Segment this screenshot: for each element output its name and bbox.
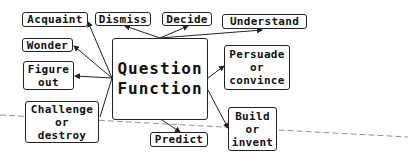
node-figure-out: Figure out: [23, 61, 74, 90]
node-wonder: Wonder: [22, 38, 73, 52]
node-label: Wonder: [27, 39, 69, 52]
node-label: invent: [232, 136, 274, 149]
node-label: Decide: [166, 13, 208, 26]
node-acquaint: Acquaint: [22, 12, 88, 27]
node-label: Predict: [155, 133, 203, 146]
node-label: or: [55, 116, 69, 129]
node-label: out: [38, 76, 59, 89]
node-label: destroy: [38, 129, 86, 142]
node-label: Challenge: [31, 103, 93, 116]
node-dismiss: Dismiss: [95, 12, 151, 26]
node-label: Build: [235, 110, 270, 123]
node-label: Persuade: [229, 48, 284, 61]
node-label: Dismiss: [99, 13, 147, 26]
node-understand: Understand: [222, 14, 307, 29]
node-label: convince: [229, 74, 284, 87]
node-decide: Decide: [162, 12, 212, 26]
node-label: Understand: [230, 15, 299, 28]
node-challenge: Challenge or destroy: [25, 101, 99, 143]
node-predict: Predict: [150, 132, 208, 147]
node-question-function: Question Function: [112, 38, 208, 120]
node-build: Build or invent: [228, 107, 277, 151]
node-persuade: Persuade or convince: [224, 45, 290, 90]
center-label-line1: Question: [117, 59, 202, 79]
node-label: or: [246, 123, 260, 136]
node-label: or: [250, 61, 264, 74]
node-label: Figure: [28, 63, 70, 76]
node-label: Acquaint: [27, 13, 82, 26]
center-label-line2: Function: [117, 79, 202, 99]
